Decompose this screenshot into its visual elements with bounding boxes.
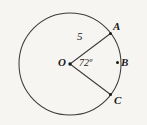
radius-length-label: 5 bbox=[77, 31, 83, 42]
central-angle-label: 72º bbox=[79, 58, 92, 68]
point-label-O: O bbox=[58, 57, 66, 68]
point-label-C: C bbox=[114, 95, 121, 106]
point-C-dot bbox=[109, 93, 112, 96]
point-B-dot bbox=[116, 61, 119, 64]
point-O-dot bbox=[68, 62, 71, 65]
point-label-B: B bbox=[121, 57, 128, 68]
point-label-A: A bbox=[113, 21, 120, 32]
point-A-dot bbox=[109, 32, 112, 35]
segment-OC bbox=[70, 64, 111, 95]
geometry-figure: O A B C 5 72º bbox=[0, 0, 147, 125]
